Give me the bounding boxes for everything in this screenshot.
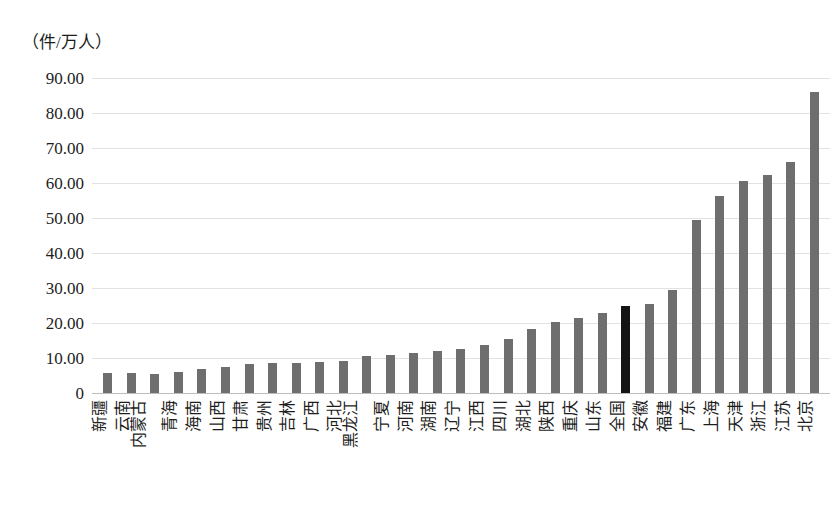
bar-slot — [473, 70, 497, 393]
bar — [763, 175, 772, 393]
bar — [315, 362, 324, 393]
bar-slot — [167, 70, 191, 393]
bar-slot — [496, 70, 520, 393]
bar — [480, 345, 489, 393]
bar — [386, 355, 395, 393]
x-axis-tick-label: 江西 — [469, 400, 485, 432]
bar — [504, 339, 513, 393]
x-axis-tick-label: 天津 — [728, 400, 744, 432]
x-axis-tick-label: 宁夏 — [374, 400, 390, 432]
bar — [433, 351, 442, 393]
plot-area: 90.0080.0070.0060.0050.0040.0030.0020.00… — [92, 70, 830, 393]
bar-slot — [120, 70, 144, 393]
bar — [692, 220, 701, 393]
bar — [174, 372, 183, 393]
x-axis-tick-label: 北京 — [798, 400, 814, 432]
bar-slot — [237, 70, 261, 393]
bar — [598, 313, 607, 393]
x-axis-tick-label: 河北 — [327, 400, 343, 432]
x-axis-tick-label: 内蒙古 — [131, 400, 147, 448]
x-axis-tick-label: 全国 — [610, 400, 626, 432]
bar-slot — [143, 70, 167, 393]
bar-slot — [402, 70, 426, 393]
y-axis-tick-label: 60.00 — [46, 175, 84, 192]
bar-slot — [779, 70, 803, 393]
x-axis-tick-label: 湖北 — [516, 400, 532, 432]
bar — [551, 322, 560, 393]
bar — [103, 373, 112, 393]
bar — [456, 349, 465, 393]
x-axis-tick-label: 湖南 — [421, 400, 437, 432]
bar-slot — [685, 70, 709, 393]
x-axis-tick-label: 山西 — [210, 400, 226, 432]
bar-slot — [190, 70, 214, 393]
x-axis-tick-label: 广东 — [680, 400, 696, 432]
x-axis-tick-label: 重庆 — [563, 400, 579, 432]
y-axis-tick-label: 40.00 — [46, 245, 84, 262]
x-axis-tick-label: 新疆 — [92, 400, 108, 432]
x-axis-line — [92, 393, 830, 394]
x-axis-tick-label: 江苏 — [775, 400, 791, 432]
x-axis-tick-label: 吉林 — [280, 400, 296, 432]
bar — [150, 374, 159, 393]
y-axis-tick-label: 20.00 — [46, 315, 84, 332]
x-axis-tick-label: 黑龙江 — [343, 400, 359, 448]
bar-slot — [96, 70, 120, 393]
y-axis-tick-label: 80.00 — [46, 105, 84, 122]
bar-slot — [614, 70, 638, 393]
y-axis-tick-label: 30.00 — [46, 280, 84, 297]
bar-slot — [802, 70, 826, 393]
y-axis-tick-label: 50.00 — [46, 210, 84, 227]
bar — [197, 369, 206, 394]
y-axis-tick-label: 90.00 — [46, 70, 84, 87]
bar — [574, 318, 583, 393]
x-axis-labels: 新疆云南内蒙古青海海南山西甘肃贵州吉林广西河北黑龙江宁夏河南湖南辽宁江西四川湖北… — [92, 398, 830, 498]
bar-slot — [426, 70, 450, 393]
x-axis-tick-label: 上海 — [704, 400, 720, 432]
x-axis-tick-label: 四川 — [492, 400, 508, 432]
bar-slot — [449, 70, 473, 393]
bar-slot — [520, 70, 544, 393]
x-axis-tick-label: 贵州 — [257, 400, 273, 432]
x-axis-tick-label: 云南 — [115, 400, 131, 432]
bar — [645, 304, 654, 393]
bar — [268, 363, 277, 393]
bar — [409, 353, 418, 393]
y-axis-unit-caption: （件/万人） — [22, 28, 112, 53]
bar — [127, 373, 136, 393]
bar-series — [92, 70, 830, 393]
bar-slot — [661, 70, 685, 393]
x-axis-tick-label: 福建 — [657, 400, 673, 432]
x-axis-tick-label: 海南 — [186, 400, 202, 432]
x-axis-tick-label: 辽宁 — [445, 400, 461, 432]
bar — [715, 196, 724, 393]
bar-slot — [331, 70, 355, 393]
bar-slot — [638, 70, 662, 393]
y-axis-tick-label: 70.00 — [46, 140, 84, 157]
bar-slot — [284, 70, 308, 393]
x-axis-tick-label: 青海 — [162, 400, 178, 432]
bar — [221, 367, 230, 393]
bar-slot — [214, 70, 238, 393]
chart-page: （件/万人） 90.0080.0070.0060.0050.0040.0030.… — [0, 0, 835, 505]
y-axis-tick-label: 0 — [76, 385, 85, 402]
x-axis-tick-label: 安徽 — [633, 400, 649, 432]
x-axis-tick-label: 河南 — [398, 400, 414, 432]
bar-slot — [590, 70, 614, 393]
x-label-slot: 北京 — [802, 398, 826, 498]
bar — [339, 361, 348, 393]
x-axis-tick-label: 浙江 — [751, 400, 767, 432]
bar-slot — [732, 70, 756, 393]
bar-slot — [355, 70, 379, 393]
bar — [362, 356, 371, 393]
bar-slot — [755, 70, 779, 393]
x-axis-tick-label: 广西 — [304, 400, 320, 432]
bar-slot — [308, 70, 332, 393]
bar — [810, 92, 819, 393]
y-axis-tick-label: 10.00 — [46, 350, 84, 367]
bar-slot — [261, 70, 285, 393]
bar-slot — [567, 70, 591, 393]
bar-slot — [708, 70, 732, 393]
x-axis-tick-label: 陕西 — [539, 400, 555, 432]
bar — [527, 329, 536, 393]
